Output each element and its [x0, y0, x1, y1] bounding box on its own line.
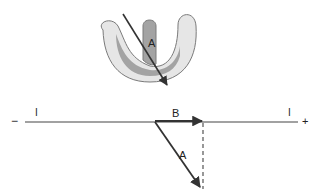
vector-a-label: A: [179, 150, 186, 161]
negative-pole-sign: −: [11, 115, 18, 127]
heart-vector-a-label: A: [148, 38, 155, 49]
diagram-graphics: [0, 0, 321, 196]
heart-ventricle-illustration: [101, 14, 196, 85]
projection-vector-b-label: B: [172, 108, 179, 119]
positive-pole-sign: +: [302, 116, 308, 127]
lead-i-right-label: I: [288, 108, 291, 118]
lead-i-vector-projection-diagram: A − I B A I +: [0, 0, 321, 196]
vector-a-arrow: [155, 122, 200, 187]
lead-i-left-label: I: [35, 108, 38, 118]
